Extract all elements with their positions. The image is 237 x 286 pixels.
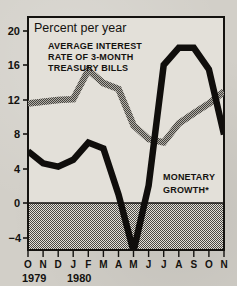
- month-label: J: [70, 259, 76, 270]
- month-label: A: [175, 259, 182, 270]
- interest-series-annotation: AVERAGE INTEREST RATE OF 3-MONTH TREASUR…: [48, 41, 142, 73]
- y-tick-label: 16: [8, 59, 20, 71]
- interest-label-line-3: TREASURY BILLS: [48, 63, 128, 73]
- interest-label-line-2: RATE OF 3-MONTH: [48, 52, 133, 62]
- y-tick-label: −4: [8, 232, 21, 244]
- y-tick-label: 4: [14, 163, 21, 175]
- month-label: J: [146, 259, 152, 270]
- month-label: A: [115, 259, 122, 270]
- y-tick-label: 12: [8, 94, 20, 106]
- interest-label-line-1: AVERAGE INTEREST: [48, 41, 142, 51]
- chart-svg: 20 16 12 8 4 0 −4 O N: [0, 0, 237, 286]
- y-tick-label: 0: [14, 197, 20, 209]
- monetary-label-line-1: MONETARY: [163, 172, 215, 182]
- year-label-1980: 1980: [67, 272, 91, 284]
- x-axis-ticks: [28, 250, 224, 257]
- x-axis-month-labels: O N D J F M A M J J A S O N: [24, 259, 228, 270]
- y-tick-label: 8: [14, 128, 20, 140]
- y-axis-labels: 20 16 12 8 4 0 −4: [8, 25, 22, 244]
- chart-title: Percent per year: [34, 21, 126, 35]
- month-label: N: [220, 259, 227, 270]
- monetary-label-line-2: GROWTH*: [163, 185, 209, 195]
- year-label-1979: 1979: [22, 272, 46, 284]
- month-label: S: [190, 259, 197, 270]
- month-label: O: [24, 259, 32, 270]
- chart-root: 20 16 12 8 4 0 −4 O N: [0, 0, 237, 286]
- y-tick-label: 20: [8, 25, 20, 37]
- month-label: N: [39, 259, 46, 270]
- month-label: M: [129, 259, 137, 270]
- month-label: J: [161, 259, 167, 270]
- month-label: M: [99, 259, 107, 270]
- x-axis-year-labels: 1979 1980: [22, 272, 91, 284]
- month-label: O: [205, 259, 213, 270]
- month-label: D: [55, 259, 62, 270]
- month-label: F: [85, 259, 91, 270]
